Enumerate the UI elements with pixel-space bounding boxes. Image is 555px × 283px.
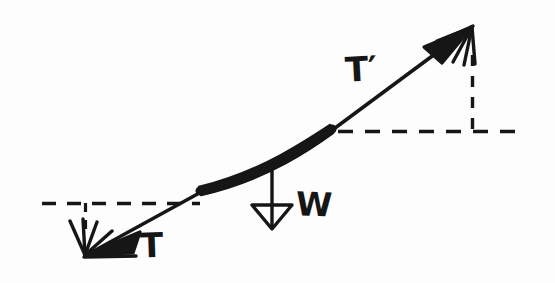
- tension-left-base: [84, 256, 136, 257]
- free-body-diagram: T T′ W: [0, 0, 555, 283]
- label-weight: W: [295, 187, 333, 221]
- label-tension-right: T′: [344, 51, 378, 87]
- weight-vector: [252, 170, 292, 229]
- tension-left-vector: [70, 191, 203, 257]
- label-tension-left: T: [139, 228, 163, 263]
- diagram-canvas: [0, 0, 555, 283]
